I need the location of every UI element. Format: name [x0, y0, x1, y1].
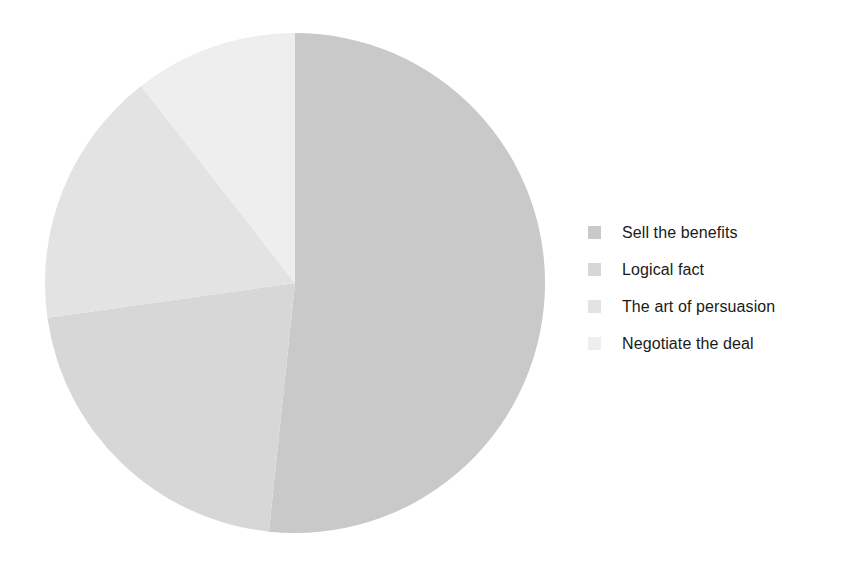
pie-chart-figure: Sell the benefits Logical fact The art o…	[0, 0, 867, 565]
pie-slice-sell-the-benefits[interactable]	[269, 33, 545, 533]
legend-swatch-negotiate-the-deal	[588, 337, 601, 350]
legend-swatch-logical-fact	[588, 263, 601, 276]
legend-label-logical-fact: Logical fact	[622, 261, 704, 279]
chart-legend: Sell the benefits Logical fact The art o…	[588, 214, 848, 362]
legend-item-sell-the-benefits[interactable]: Sell the benefits	[588, 214, 848, 251]
pie-slice-logical-fact[interactable]	[47, 283, 295, 532]
legend-label-sell-the-benefits: Sell the benefits	[622, 224, 738, 242]
legend-swatch-sell-the-benefits	[588, 226, 601, 239]
legend-label-the-art-of-persuasion: The art of persuasion	[622, 298, 775, 316]
legend-item-the-art-of-persuasion[interactable]: The art of persuasion	[588, 288, 848, 325]
pie-graphic	[45, 33, 545, 533]
pie-slice-group	[45, 33, 545, 533]
legend-item-logical-fact[interactable]: Logical fact	[588, 251, 848, 288]
legend-label-negotiate-the-deal: Negotiate the deal	[622, 335, 754, 353]
legend-swatch-the-art-of-persuasion	[588, 300, 601, 313]
legend-item-negotiate-the-deal[interactable]: Negotiate the deal	[588, 325, 848, 362]
pie-svg	[45, 33, 545, 533]
